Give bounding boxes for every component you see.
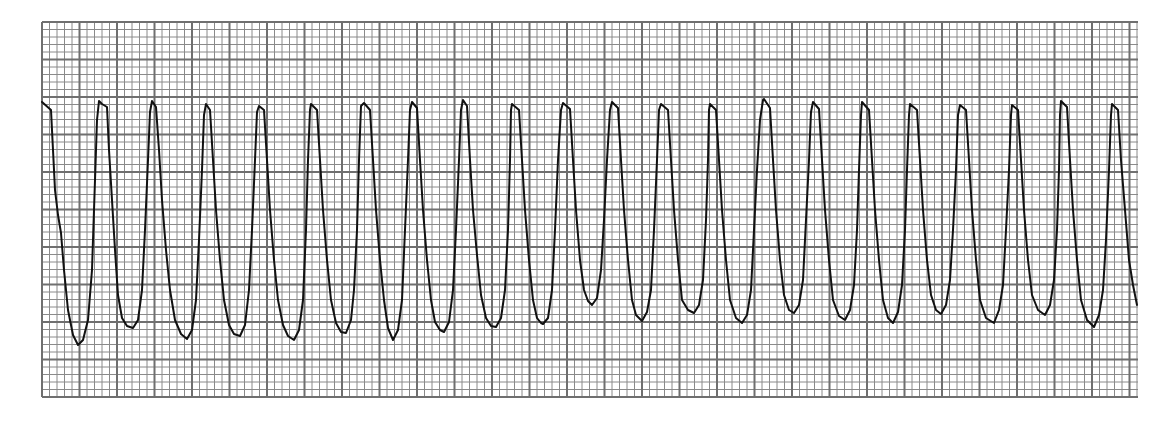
ecg-chart [0, 0, 1173, 423]
ecg-strip: ECG rhythm strip [0, 0, 1173, 423]
